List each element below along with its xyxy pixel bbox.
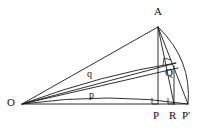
label-vertex-Pprime: P′ [182,110,191,121]
segment-O-to-Q [22,68,178,104]
label-vertex-Q: Q [165,67,173,78]
geometry-figure: A O P R P′ Q p q [0,0,203,128]
label-segment-q: q [87,69,92,79]
label-vertex-A: A [154,6,162,17]
label-vertex-O: O [7,97,15,108]
arc-p-curve [22,98,188,104]
right-angle-at-P [152,98,158,104]
label-vertex-P: P [153,110,159,121]
label-vertex-R: R [169,110,176,121]
label-segment-p: p [89,90,94,100]
